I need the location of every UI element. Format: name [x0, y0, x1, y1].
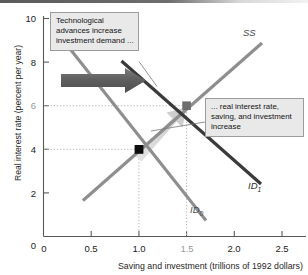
id0-curve-label-sub: 0 — [200, 210, 204, 217]
id0-curve-label: ID0 — [190, 204, 203, 217]
callout-demand-shift: Technological advances increase investme… — [50, 12, 139, 51]
y-tick-10: 10 — [20, 13, 36, 24]
y-tick-2: 2 — [20, 188, 36, 199]
x-tick-2-5: 2.5 — [269, 243, 295, 254]
x-tick-1-5: 1.5 — [174, 243, 200, 254]
original-equilibrium-marker — [135, 145, 144, 154]
x-axis-title: Saving and investment (trillions of 1992… — [118, 261, 303, 271]
x-tick-1-0: 1.0 — [126, 243, 152, 254]
y-axis-title: Real interest rate (percent per year) — [13, 38, 23, 188]
ss-curve-label-text: SS — [243, 27, 256, 38]
id1-curve-label: ID1 — [248, 180, 261, 193]
economics-figure: 10 8 6 4 2 0 0 0.5 1.0 1.5 2.0 2.5 Real … — [0, 0, 308, 275]
callout-equilibrium-change: ... real interest rate, saving, and inve… — [205, 98, 304, 137]
x-tick-0-5: 0.5 — [78, 243, 104, 254]
id0-curve-label-text: ID — [190, 204, 200, 215]
new-equilibrium-marker — [182, 101, 191, 110]
x-tick-0: 0 — [31, 243, 57, 254]
plot-area — [0, 0, 308, 275]
x-tick-2-0: 2.0 — [221, 243, 247, 254]
id1-curve-label-sub: 1 — [258, 186, 262, 193]
ss-curve-label: SS — [243, 27, 256, 38]
id1-curve-label-text: ID — [248, 180, 258, 191]
